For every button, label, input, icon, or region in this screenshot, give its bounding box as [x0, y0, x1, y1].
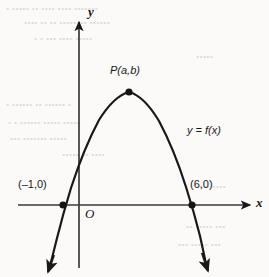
left-intercept-label: (–1,0)	[18, 178, 47, 190]
x-axis-label: x	[256, 195, 263, 211]
curve-equation-label: y = f(x)	[187, 124, 221, 136]
vertex-point-marker	[125, 88, 132, 95]
left-intercept-point-marker	[59, 201, 66, 208]
figure-canvas: • ••••• •• •••• •••• ••••••••••• •• •• •…	[0, 0, 269, 277]
parabola-figure-svg	[0, 0, 269, 277]
vertex-label: P(a,b)	[110, 64, 140, 76]
y-axis-label: y	[88, 4, 94, 20]
parabola-curve	[50, 92, 206, 266]
right-intercept-point-marker	[188, 201, 195, 208]
origin-label: O	[85, 206, 94, 222]
right-intercept-label: (6,0)	[190, 178, 213, 190]
